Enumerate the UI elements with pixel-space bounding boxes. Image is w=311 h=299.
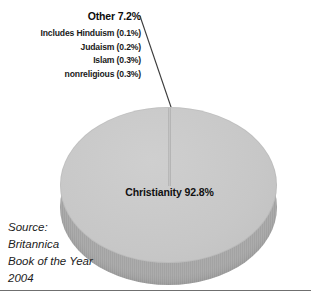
source-line: Britannica (8, 236, 93, 253)
callout-leader-line (140, 16, 172, 110)
other-slice-callout: Other 7.2% Includes Hinduism (0.1%) Juda… (0, 10, 141, 81)
pie-slice-label-christianity: Christianity 92.8% (0, 186, 311, 198)
pie-slice-divider (168, 108, 169, 186)
bottom-divider (0, 290, 311, 291)
callout-breakdown-item: Islam (0.3%) (0, 54, 141, 68)
source-line: 2004 (8, 270, 93, 287)
callout-breakdown-item: Includes Hinduism (0.1%) (0, 27, 141, 41)
source-line: Source: (8, 219, 93, 236)
pie-slice-divider-secondary (170, 108, 171, 186)
callout-breakdown-item: Judaism (0.2%) (0, 41, 141, 55)
callout-breakdown-list: Includes Hinduism (0.1%) Judaism (0.2%) … (0, 27, 141, 81)
callout-breakdown-item: nonreligious (0.3%) (0, 68, 141, 82)
source-line: Book of the Year (8, 253, 93, 270)
pie-chart-figure: Other 7.2% Includes Hinduism (0.1%) Juda… (0, 0, 311, 299)
callout-title: Other 7.2% (0, 10, 141, 23)
source-note: Source: Britannica Book of the Year 2004 (8, 219, 93, 287)
